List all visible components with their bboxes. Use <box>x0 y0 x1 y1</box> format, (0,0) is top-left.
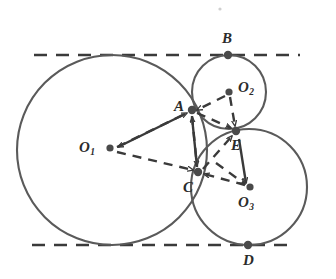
label-center-o3: O3 <box>238 195 254 210</box>
segment-C-A <box>192 117 197 167</box>
stray-speck <box>218 7 221 10</box>
label-point-e: E <box>231 138 241 153</box>
segment-O2-E <box>230 97 235 126</box>
segment-O2-A <box>197 96 225 110</box>
label-center-o3-subscript: 3 <box>249 202 254 212</box>
circle-group <box>17 55 307 245</box>
label-center-o1-letter: O <box>79 139 90 155</box>
tangent-lines <box>32 55 300 245</box>
label-point-a: A <box>174 99 184 114</box>
point-O2 <box>225 88 232 95</box>
label-center-o1-subscript: 1 <box>90 147 95 157</box>
point-O1 <box>106 144 113 151</box>
geometry-canvas <box>0 0 336 279</box>
point-B <box>224 51 232 59</box>
label-center-o2: O2 <box>238 80 254 95</box>
label-center-o2-letter: O <box>238 79 249 95</box>
label-center-o1: O1 <box>79 140 95 155</box>
label-point-d: D <box>243 253 254 268</box>
segment-O1-C <box>117 152 193 170</box>
segment-A-O1 <box>118 114 185 147</box>
label-center-o2-subscript: 2 <box>249 87 254 97</box>
point-A <box>188 106 196 114</box>
segment-O3-C <box>204 174 245 185</box>
point-D <box>244 241 252 249</box>
point-C <box>194 168 202 176</box>
point-O3 <box>246 183 253 190</box>
geometry-figure: A B C D E O1 O2 O3 <box>0 0 336 279</box>
label-point-b: B <box>222 31 232 46</box>
segment-E-O3 <box>216 163 245 184</box>
point-E <box>232 127 240 135</box>
label-point-c: C <box>183 180 193 195</box>
label-center-o3-letter: O <box>238 194 249 210</box>
